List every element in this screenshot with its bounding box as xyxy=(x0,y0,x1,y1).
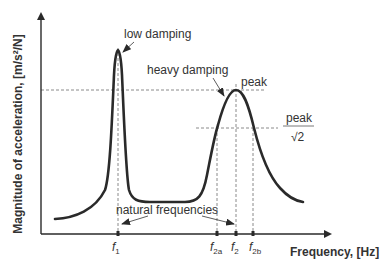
heavy-damping-pointer xyxy=(213,78,224,96)
x-axis-label: Frequency, [Hz] xyxy=(290,245,379,259)
half-power-numerator: peak xyxy=(286,111,313,125)
tick-label-f2b: f2b xyxy=(249,240,262,256)
low-damping-pointer xyxy=(123,42,134,52)
natural-frequencies-label: natural frequencies xyxy=(116,203,218,217)
tick-f2 xyxy=(235,231,238,236)
peak-label: peak xyxy=(241,75,268,89)
low-damping-label: low damping xyxy=(124,27,191,41)
tick-label-f2: f2 xyxy=(231,240,239,256)
tick-f2b xyxy=(252,231,255,236)
tick-label-f1: f1 xyxy=(112,240,120,256)
half-power-denominator: √2 xyxy=(291,130,305,144)
natural-freq-pointer-f2 xyxy=(202,216,234,224)
tick-label-f2a: f2a xyxy=(210,240,223,256)
tick-f1 xyxy=(117,231,120,236)
heavy-damping-label: heavy damping xyxy=(147,63,228,77)
tick-f2a xyxy=(216,231,219,236)
frequency-response-diagram: f1 f2a f2 f2b Frequency, [Hz] Magnitude … xyxy=(0,0,392,270)
y-axis-label: Magnitude of acceleration, [m/s²/N] xyxy=(11,34,25,233)
natural-freq-pointer-f1 xyxy=(122,216,148,224)
